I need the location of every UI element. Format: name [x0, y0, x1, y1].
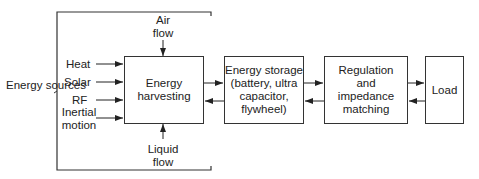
input-solar-label: Solar [64, 76, 91, 89]
energy-storage-block: Energy storage (battery, ultra capacitor… [224, 56, 304, 124]
energy-harvesting-block: Energy harvesting [124, 56, 204, 124]
energy-harvesting-label: Energy harvesting [132, 77, 196, 103]
input-heat-label: Heat [66, 58, 90, 71]
energy-storage-label: Energy storage (battery, ultra capacitor… [225, 64, 303, 116]
load-label: Load [432, 84, 458, 97]
input-air-flow-label: Air flow [147, 14, 179, 40]
regulation-label: Regulation and impedance matching [331, 64, 401, 116]
load-block: Load [425, 56, 464, 124]
input-liquid-flow-label: Liquid flow [143, 143, 183, 169]
regulation-block: Regulation and impedance matching [324, 56, 408, 124]
input-inertial-motion-label: Inertial motion [61, 106, 97, 132]
